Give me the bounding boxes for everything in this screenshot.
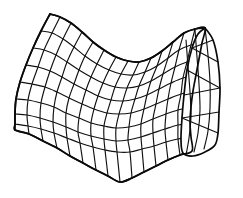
figure-root [0, 0, 243, 198]
wireframe-surface-figure [0, 0, 243, 198]
